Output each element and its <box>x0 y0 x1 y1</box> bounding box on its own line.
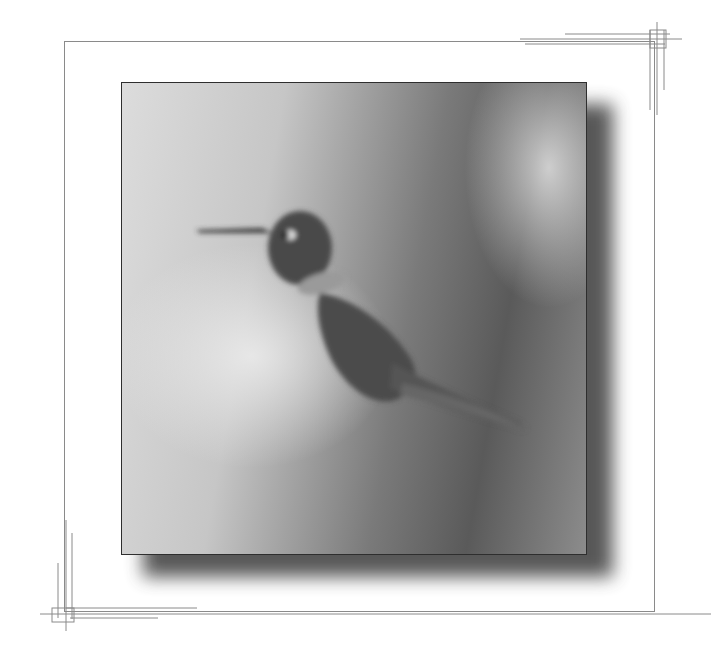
beak <box>196 228 272 233</box>
hummingbird-photo <box>121 82 587 555</box>
